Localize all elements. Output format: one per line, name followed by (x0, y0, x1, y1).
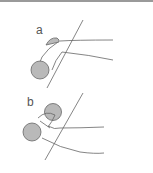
panel-label-b: b (27, 96, 34, 108)
weight-plate-large-a (31, 61, 49, 79)
panel-label-a: a (36, 24, 43, 36)
panel-b-illustration (23, 93, 104, 160)
weight-plate-small-a (46, 38, 59, 45)
weight-plate-large-b (23, 123, 41, 141)
reference-line-b (45, 93, 83, 160)
panel-a-illustration (31, 20, 113, 88)
diagram-canvas (0, 0, 153, 173)
weight-plate-small-b (45, 104, 62, 121)
